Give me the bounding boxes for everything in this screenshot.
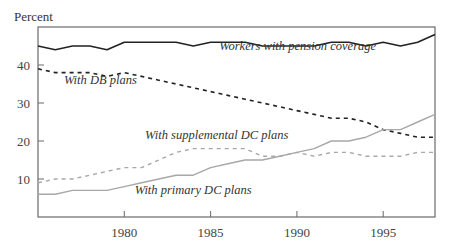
series-with-supplemental-dc-plans xyxy=(38,149,435,183)
x-tick-label: 1995 xyxy=(370,225,396,240)
series-label: With supplemental DC plans xyxy=(145,128,289,142)
y-tick-label: 20 xyxy=(17,134,30,149)
x-tick-label: 1985 xyxy=(198,225,224,240)
y-tick-label: 10 xyxy=(17,172,30,187)
series-label: Workers with pension coverage xyxy=(219,39,376,53)
y-tick-label: 40 xyxy=(17,58,30,73)
x-tick-label: 1990 xyxy=(284,225,310,240)
y-axis-title: Percent xyxy=(14,9,53,24)
line-chart: Percent 102030401980198519901995 Workers… xyxy=(0,0,452,250)
series-label: With primary DC plans xyxy=(135,183,252,197)
y-tick-label: 30 xyxy=(17,96,30,111)
x-tick-label: 1980 xyxy=(111,225,137,240)
series-label: With DB plans xyxy=(64,73,137,87)
series-lines xyxy=(38,35,435,195)
